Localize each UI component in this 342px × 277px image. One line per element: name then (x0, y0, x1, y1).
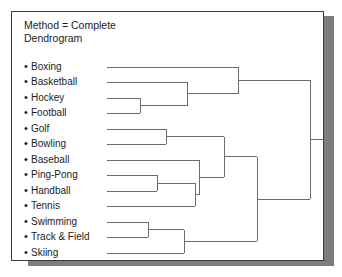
dendrogram-screenshot: Method = Complete Dendrogram •Boxing•Bas… (0, 0, 342, 277)
dendrogram-panel: Method = Complete Dendrogram •Boxing•Bas… (11, 11, 324, 261)
dendrogram-tree (12, 12, 324, 261)
